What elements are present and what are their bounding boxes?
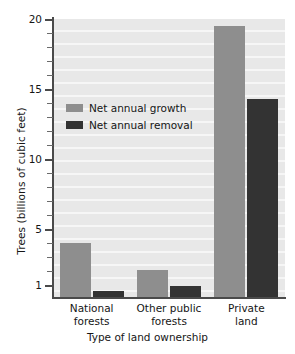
y-tick-minor (47, 145, 53, 146)
legend-swatch-removal-icon (66, 121, 83, 129)
x-category-label-line: land (208, 315, 285, 328)
y-tick-label: 1 (12, 279, 42, 291)
x-axis-line (52, 297, 286, 299)
x-category-label-line: National (53, 302, 130, 315)
y-tick-major (45, 285, 53, 287)
y-tick-minor (47, 117, 53, 118)
x-category-label: Privateland (208, 302, 285, 327)
y-tick-minor (47, 271, 53, 272)
chart-figure: Trees (billions of cubic feet) 20151051 … (0, 0, 295, 354)
x-category-label: Other publicforests (130, 302, 207, 327)
y-tick-major (45, 159, 53, 161)
legend-item-growth: Net annual growth (66, 100, 193, 115)
legend-item-removal: Net annual removal (66, 117, 193, 132)
x-category-label-line: forests (53, 315, 130, 328)
x-category-label-line: Other public (130, 302, 207, 315)
y-tick-minor (47, 75, 53, 76)
y-tick-minor (47, 187, 53, 188)
y-tick-minor (47, 173, 53, 174)
bar-growth (214, 26, 245, 297)
y-tick-label: 10 (12, 153, 42, 165)
y-tick-minor (47, 243, 53, 244)
y-tick-label: 20 (12, 13, 42, 25)
legend-label-growth: Net annual growth (89, 102, 186, 114)
y-tick-minor (47, 201, 53, 202)
y-tick-major (45, 19, 53, 21)
y-tick-label: 15 (12, 83, 42, 95)
bar-removal (247, 99, 278, 297)
y-tick-label: 5 (12, 223, 42, 235)
y-tick-minor (47, 47, 53, 48)
plot-area (53, 19, 285, 297)
x-category-label-line: forests (130, 315, 207, 328)
y-tick-major (45, 89, 53, 91)
x-axis-title: Type of land ownership (0, 331, 295, 343)
y-tick-minor (47, 215, 53, 216)
legend: Net annual growth Net annual removal (66, 100, 193, 134)
x-category-label: Nationalforests (53, 302, 130, 327)
y-tick-minor (47, 257, 53, 258)
bar-growth (137, 270, 168, 297)
y-tick-minor (47, 33, 53, 34)
legend-label-removal: Net annual removal (89, 119, 193, 131)
y-tick-major (45, 229, 53, 231)
y-axis-title: Trees (billions of cubic feet) (15, 71, 27, 291)
y-tick-minor (47, 131, 53, 132)
x-category-label-line: Private (208, 302, 285, 315)
y-tick-minor (47, 61, 53, 62)
bar-growth (60, 243, 91, 297)
y-tick-minor (47, 103, 53, 104)
bar-removal (170, 286, 201, 297)
legend-swatch-growth-icon (66, 104, 83, 112)
